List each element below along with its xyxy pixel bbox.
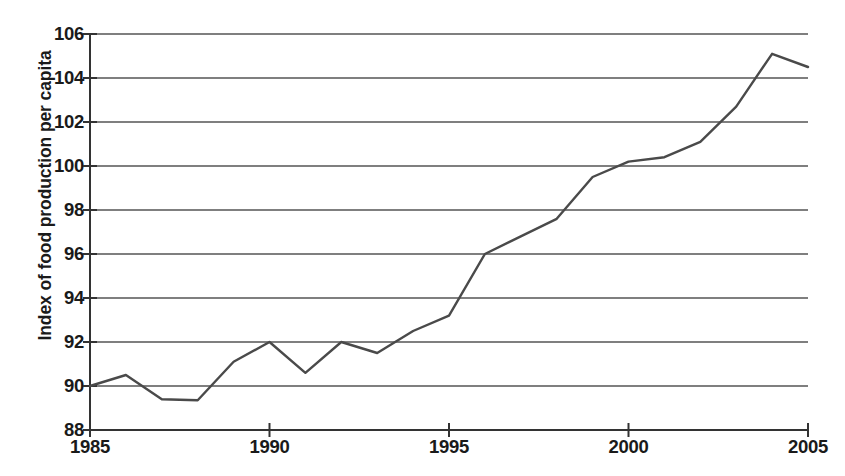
plot-area bbox=[0, 0, 845, 476]
x-tick-label: 2000 bbox=[589, 436, 669, 458]
x-tick-label: 1985 bbox=[50, 436, 130, 458]
line-chart: Index of food production per capita 8890… bbox=[0, 0, 845, 476]
tick-marks bbox=[83, 34, 808, 437]
x-tick-label: 1995 bbox=[409, 436, 489, 458]
gridlines bbox=[90, 34, 808, 386]
axis-lines bbox=[90, 34, 808, 430]
x-tick-label: 2005 bbox=[768, 436, 845, 458]
x-tick-label: 1990 bbox=[230, 436, 310, 458]
data-series-line bbox=[90, 54, 808, 401]
